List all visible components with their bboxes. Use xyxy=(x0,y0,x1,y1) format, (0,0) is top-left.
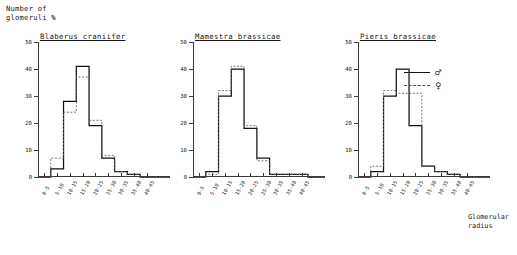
y-axis-tick xyxy=(34,42,39,43)
y-axis-tick xyxy=(189,177,194,178)
y-axis-tick-label: 20 xyxy=(25,120,33,126)
x-axis-tick xyxy=(95,173,96,177)
x-axis-tick xyxy=(276,173,277,177)
y-axis-tick-label: 40 xyxy=(25,66,33,72)
x-axis-tick xyxy=(44,173,45,177)
x-axis-tick xyxy=(415,173,416,177)
x-axis-tick xyxy=(147,173,148,177)
x-axis-tick xyxy=(70,173,71,177)
y-axis-tick xyxy=(354,123,359,124)
panel-pieris-brassicae: Pieris brassicae 010203040500-55-1010-15… xyxy=(338,28,478,213)
series-line-male xyxy=(38,66,170,177)
step-histogram-group xyxy=(348,42,494,195)
legend-item-male: ♂ xyxy=(404,66,494,79)
legend-item-female: ♀ xyxy=(404,79,494,92)
x-axis-tick xyxy=(134,173,135,177)
y-axis-tick xyxy=(354,69,359,70)
x-axis-tick xyxy=(250,173,251,177)
y-axis-tick-label: 10 xyxy=(180,147,188,153)
x-axis-tick xyxy=(199,173,200,177)
y-axis-tick-label: 10 xyxy=(25,147,33,153)
x-axis-tick xyxy=(302,173,303,177)
series-line-female xyxy=(358,91,490,177)
panel-title: Blaberus craniifer xyxy=(40,32,126,41)
y-axis xyxy=(358,42,359,177)
x-axis-tick xyxy=(364,173,365,177)
x-axis-tick xyxy=(83,173,84,177)
x-axis-tick xyxy=(428,173,429,177)
y-axis-tick xyxy=(189,42,194,43)
y-axis-tick-label: 20 xyxy=(345,120,353,126)
x-axis-tick xyxy=(454,173,455,177)
x-axis-tick xyxy=(390,173,391,177)
plot-area: 010203040500-55-1010-1515-2020-2525-3030… xyxy=(183,42,313,195)
y-axis-tick xyxy=(34,150,39,151)
y-axis-tick xyxy=(34,69,39,70)
y-axis-tick-label: 0 xyxy=(349,174,353,180)
x-axis-tick xyxy=(225,173,226,177)
y-axis-tick-label: 0 xyxy=(29,174,33,180)
plot-area: 010203040500-55-1010-1515-2020-2525-3030… xyxy=(348,42,478,195)
y-axis xyxy=(193,42,194,177)
y-axis-tick xyxy=(354,177,359,178)
y-axis-tick-label: 40 xyxy=(345,66,353,72)
x-axis-tick xyxy=(403,173,404,177)
y-axis-tick-label: 30 xyxy=(180,93,188,99)
male-symbol-icon: ♂ xyxy=(435,68,441,78)
y-axis-tick-label: 0 xyxy=(184,174,188,180)
y-axis-tick xyxy=(34,96,39,97)
y-axis-label: Number of glomeruli % xyxy=(6,4,56,22)
y-axis-tick-label: 10 xyxy=(345,147,353,153)
step-histogram-group xyxy=(28,42,174,195)
series-line-female xyxy=(38,77,170,177)
y-axis-tick xyxy=(354,150,359,151)
plot-area: 010203040500-55-1010-1515-2020-2525-3030… xyxy=(28,42,158,195)
x-axis-tick xyxy=(467,173,468,177)
x-axis-tick xyxy=(441,173,442,177)
panel-mamestra-brassicae: Mamestra brassicae 010203040500-55-1010-… xyxy=(173,28,313,213)
y-axis-tick-label: 50 xyxy=(180,39,188,45)
legend-line-solid-icon xyxy=(404,72,430,73)
figure-root: Number of glomeruli % Blaberus craniifer… xyxy=(0,0,517,255)
x-axis-tick xyxy=(263,173,264,177)
panel-title: Pieris brassicae xyxy=(360,32,436,41)
y-axis xyxy=(38,42,39,177)
y-axis-tick-label: 30 xyxy=(345,93,353,99)
female-symbol-icon: ♀ xyxy=(435,81,441,91)
y-axis-tick-label: 50 xyxy=(25,39,33,45)
y-axis-tick-label: 40 xyxy=(180,66,188,72)
y-axis-tick xyxy=(189,69,194,70)
x-axis-tick xyxy=(57,173,58,177)
panel-title: Mamestra brassicae xyxy=(195,32,281,41)
y-axis-tick-label: 50 xyxy=(345,39,353,45)
y-axis-tick-label: 20 xyxy=(180,120,188,126)
x-axis-tick xyxy=(238,173,239,177)
legend: ♂ ♀ xyxy=(404,66,494,92)
x-axis-label: Glomerular radius xyxy=(468,213,509,230)
panel-blaberus-craniifer: Blaberus craniifer 010203040500-55-1010-… xyxy=(18,28,158,213)
y-axis-tick-label: 30 xyxy=(25,93,33,99)
y-axis-tick xyxy=(189,96,194,97)
step-histogram-group xyxy=(183,42,329,195)
x-axis-tick xyxy=(121,173,122,177)
y-axis-tick xyxy=(189,123,194,124)
x-axis-tick xyxy=(377,173,378,177)
y-axis-tick xyxy=(189,150,194,151)
y-axis-tick xyxy=(354,96,359,97)
x-axis-tick xyxy=(108,173,109,177)
y-axis-tick xyxy=(34,177,39,178)
legend-line-dashed-icon xyxy=(404,85,430,86)
series-line-female xyxy=(193,66,325,177)
x-axis-tick xyxy=(212,173,213,177)
y-axis-tick xyxy=(354,42,359,43)
x-axis-tick xyxy=(289,173,290,177)
y-axis-tick xyxy=(34,123,39,124)
